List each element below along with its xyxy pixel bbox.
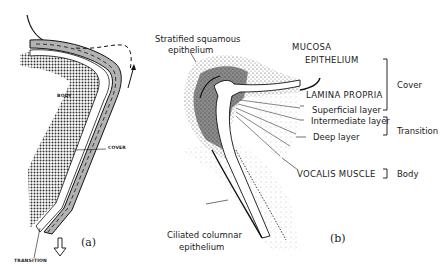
- label-ciliated-1: Ciliated columnar: [167, 231, 242, 240]
- panel-b-tag: (b): [330, 233, 346, 244]
- label-epithelium: EPITHELIUM: [305, 56, 359, 65]
- panel-a-figure: [20, 15, 136, 258]
- flow-arrow-icon: [54, 238, 66, 256]
- label-body: BODY: [57, 94, 72, 99]
- label-transition: TRANSITION: [14, 259, 47, 264]
- label-vocalis-muscle: VOCALIS MUSCLE: [297, 170, 376, 179]
- bracket-label-transition: Transition: [397, 127, 438, 136]
- label-stratified-1: Stratified squamous: [155, 35, 241, 44]
- bracket-label-cover: Cover: [397, 81, 422, 90]
- transition-leader: [34, 228, 40, 258]
- label-mucosa: MUCOSA: [292, 43, 331, 52]
- label-stratified-2: epithelium: [168, 46, 213, 55]
- bracket-label-body: Body: [397, 170, 418, 179]
- label-deep-layer: Deep layer: [313, 133, 359, 142]
- muscle-region: [250, 84, 300, 160]
- body-bracket: [383, 169, 387, 178]
- wave-arrow-head: [131, 64, 136, 70]
- label-intermediate-layer: Intermediate layer: [311, 117, 390, 126]
- label-cover: COVER: [108, 146, 126, 151]
- label-superficial-layer: Superficial layer: [312, 106, 381, 115]
- panel-b-figure: [180, 52, 387, 250]
- label-lamina-propria: LAMINA PROPRIA: [306, 91, 383, 100]
- label-ciliated-2: epithelium: [179, 243, 224, 252]
- panel-a-tag: (a): [81, 237, 96, 248]
- cover-bracket: [383, 59, 387, 110]
